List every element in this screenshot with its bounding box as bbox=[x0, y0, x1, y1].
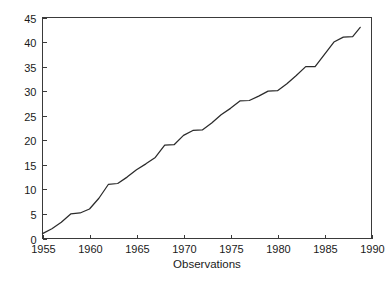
x-axis-tick-labels: 19551960196519701975198019851990 bbox=[31, 243, 384, 255]
x-tick-label: 1960 bbox=[78, 243, 102, 255]
y-tick-label: 35 bbox=[24, 62, 36, 74]
x-tick-label: 1965 bbox=[125, 243, 149, 255]
x-tick-label: 1975 bbox=[219, 243, 243, 255]
y-tick-label: 15 bbox=[24, 160, 36, 172]
y-axis-ticks bbox=[43, 19, 47, 240]
x-axis-ticks bbox=[44, 235, 373, 239]
y-tick-label: 40 bbox=[24, 37, 36, 49]
x-tick-label: 1955 bbox=[31, 243, 55, 255]
x-tick-label: 1985 bbox=[313, 243, 337, 255]
x-tick-label: 1980 bbox=[266, 243, 290, 255]
y-tick-label: 20 bbox=[24, 135, 36, 147]
plot-box-border bbox=[43, 18, 372, 239]
line-chart: 051015202530354045 195519601965197019751… bbox=[0, 0, 390, 282]
data-series-line bbox=[43, 27, 361, 233]
y-axis-tick-labels: 051015202530354045 bbox=[24, 13, 36, 246]
axis-frame bbox=[43, 18, 372, 239]
x-tick-label: 1990 bbox=[360, 243, 384, 255]
x-axis-title: Observations bbox=[173, 258, 241, 270]
y-tick-label: 30 bbox=[24, 86, 36, 98]
chart-figure: 051015202530354045 195519601965197019751… bbox=[0, 0, 390, 282]
y-tick-label: 25 bbox=[24, 111, 36, 123]
x-tick-label: 1970 bbox=[172, 243, 196, 255]
y-tick-label: 45 bbox=[24, 13, 36, 25]
y-tick-label: 10 bbox=[24, 184, 36, 196]
y-tick-label: 5 bbox=[30, 209, 36, 221]
